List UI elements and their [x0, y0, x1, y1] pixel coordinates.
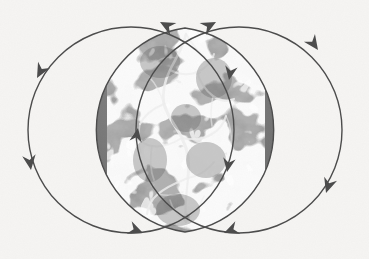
lens-texture [130, 20, 242, 242]
figure-root [0, 0, 369, 259]
vesica-piscis-figure [0, 0, 369, 259]
